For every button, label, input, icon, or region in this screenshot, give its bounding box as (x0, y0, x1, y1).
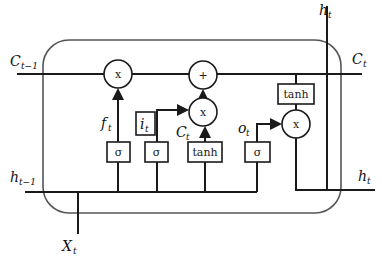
svg-text:t−1: t−1 (19, 177, 36, 187)
svg-text:t: t (367, 176, 371, 186)
svg-text:tanh: tanh (192, 146, 217, 159)
svg-text:h: h (358, 168, 367, 184)
svg-text:X: X (61, 238, 73, 254)
label-h-prev: h t−1 (10, 169, 36, 187)
label-h-top: h t (319, 2, 332, 20)
svg-text:h: h (319, 2, 328, 18)
output-arrow (257, 124, 280, 142)
input-sigma-box: σ (145, 142, 168, 162)
svg-text:x: x (293, 118, 300, 131)
svg-text:i: i (140, 116, 144, 132)
svg-text:t: t (145, 124, 149, 134)
svg-text:σ: σ (254, 146, 262, 159)
label-c-out: C t (352, 51, 367, 69)
svg-text:σ: σ (153, 146, 161, 159)
forget-sigma-box: σ (107, 142, 130, 162)
svg-text:C: C (352, 51, 363, 67)
label-f-gate: f t (100, 115, 112, 133)
svg-text:tanh: tanh (283, 88, 308, 101)
label-o-gate: o t (238, 120, 250, 138)
candidate-tanh-box: tanh (188, 142, 222, 162)
input-multiply-node: x (189, 98, 217, 126)
svg-text:t: t (73, 246, 77, 256)
svg-text:t: t (328, 10, 332, 20)
svg-text:h: h (10, 169, 19, 185)
svg-text:σ: σ (115, 146, 123, 159)
label-h-out: h t (358, 168, 371, 186)
lstm-diagram: x + x x σ σ tanh σ tanh C t−1 C t (0, 0, 382, 259)
svg-text:+: + (198, 69, 207, 82)
svg-text:t: t (363, 59, 367, 69)
svg-text:t: t (186, 132, 190, 142)
cell-tanh-box: tanh (278, 84, 314, 104)
svg-text:t: t (246, 128, 250, 138)
output-sigma-box: σ (245, 142, 270, 162)
label-c-candidate: C t (176, 124, 190, 142)
label-c-prev: C t−1 (10, 53, 38, 71)
svg-text:t: t (108, 123, 112, 133)
label-x-in: X t (61, 238, 77, 256)
svg-text:t−1: t−1 (21, 61, 38, 71)
add-node: + (189, 61, 217, 89)
svg-text:x: x (200, 106, 207, 119)
svg-text:C: C (10, 53, 21, 69)
output-multiply-node: x (282, 110, 310, 138)
forget-multiply-node: x (104, 60, 132, 88)
svg-text:x: x (115, 68, 122, 81)
